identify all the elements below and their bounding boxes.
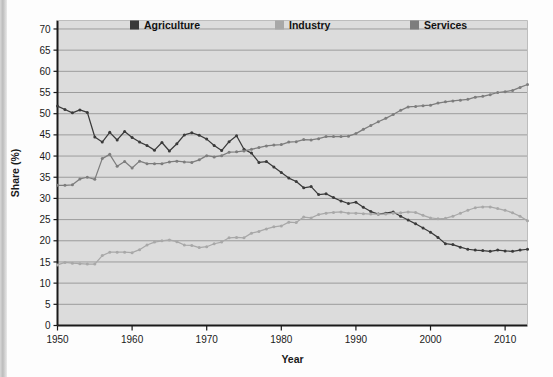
data-point bbox=[183, 244, 186, 247]
data-point bbox=[302, 138, 305, 141]
data-point bbox=[384, 213, 387, 216]
data-point bbox=[190, 161, 193, 164]
data-point bbox=[399, 109, 402, 112]
data-point bbox=[153, 241, 156, 244]
data-point bbox=[78, 262, 81, 265]
data-point bbox=[243, 236, 246, 239]
data-point bbox=[302, 186, 305, 189]
data-point bbox=[519, 215, 522, 218]
legend-swatch-industry bbox=[275, 21, 284, 30]
y-tick-label: 15 bbox=[39, 257, 51, 268]
data-point bbox=[317, 193, 320, 196]
y-tick-label: 45 bbox=[39, 129, 51, 140]
data-point bbox=[377, 213, 380, 216]
data-point bbox=[146, 162, 149, 165]
x-axis-title: Year bbox=[281, 353, 303, 365]
legend-label: Agriculture bbox=[144, 19, 200, 31]
data-point bbox=[146, 244, 149, 247]
data-point bbox=[116, 165, 119, 168]
data-point bbox=[213, 155, 216, 158]
data-point bbox=[504, 209, 507, 212]
data-point bbox=[436, 217, 439, 220]
y-tick-label: 60 bbox=[39, 66, 51, 77]
data-point bbox=[511, 211, 514, 214]
legend-label: Industry bbox=[289, 19, 331, 31]
data-point bbox=[414, 222, 417, 225]
data-point bbox=[339, 199, 342, 202]
data-point bbox=[213, 144, 216, 147]
data-point bbox=[377, 120, 380, 123]
data-point bbox=[116, 251, 119, 254]
data-point bbox=[108, 251, 111, 254]
data-point bbox=[302, 216, 305, 219]
legend-swatch-services bbox=[410, 21, 419, 30]
data-point bbox=[257, 230, 260, 233]
data-point bbox=[436, 236, 439, 239]
data-point bbox=[526, 83, 529, 86]
data-point bbox=[220, 241, 223, 244]
data-point bbox=[213, 242, 216, 245]
data-point bbox=[56, 184, 59, 187]
data-point bbox=[369, 213, 372, 216]
data-point bbox=[310, 185, 313, 188]
data-point bbox=[272, 144, 275, 147]
y-tick-label: 40 bbox=[39, 151, 51, 162]
data-point bbox=[287, 141, 290, 144]
data-point bbox=[146, 144, 149, 147]
data-point bbox=[86, 263, 89, 266]
y-tick-label: 50 bbox=[39, 108, 51, 119]
data-point bbox=[280, 171, 283, 174]
data-point bbox=[489, 250, 492, 253]
x-tick-label: 1980 bbox=[270, 334, 293, 345]
data-point bbox=[220, 154, 223, 157]
data-point bbox=[71, 262, 74, 265]
x-axis-ticks: 1950196019701980199020002010 bbox=[46, 326, 516, 345]
data-point bbox=[86, 111, 89, 114]
data-point bbox=[422, 214, 425, 217]
data-point bbox=[160, 239, 163, 242]
y-tick-label: 65 bbox=[39, 45, 51, 56]
data-point bbox=[101, 254, 104, 257]
data-point bbox=[93, 263, 96, 266]
data-point bbox=[474, 206, 477, 209]
data-point bbox=[101, 141, 104, 144]
data-point bbox=[280, 224, 283, 227]
data-point bbox=[526, 219, 529, 222]
data-point bbox=[339, 210, 342, 213]
data-point bbox=[131, 166, 134, 169]
data-point bbox=[489, 205, 492, 208]
data-point bbox=[175, 240, 178, 243]
data-point bbox=[511, 250, 514, 253]
data-point bbox=[392, 212, 395, 215]
data-point bbox=[205, 245, 208, 248]
data-point bbox=[310, 138, 313, 141]
data-point bbox=[451, 215, 454, 218]
data-point bbox=[444, 100, 447, 103]
data-point bbox=[205, 154, 208, 157]
data-point bbox=[265, 227, 268, 230]
data-point bbox=[93, 135, 96, 138]
data-point bbox=[138, 248, 141, 251]
data-point bbox=[481, 95, 484, 98]
data-point bbox=[362, 212, 365, 215]
data-point bbox=[101, 157, 104, 160]
data-point bbox=[257, 146, 260, 149]
data-point bbox=[519, 86, 522, 89]
data-point bbox=[175, 160, 178, 163]
data-point bbox=[287, 177, 290, 180]
data-point bbox=[63, 108, 66, 111]
y-tick-label: 0 bbox=[45, 320, 51, 331]
data-point bbox=[190, 244, 193, 247]
x-tick-label: 2000 bbox=[419, 334, 442, 345]
data-point bbox=[123, 130, 126, 133]
data-point bbox=[56, 105, 59, 108]
data-point bbox=[71, 111, 74, 114]
x-tick-label: 2010 bbox=[494, 334, 517, 345]
data-point bbox=[220, 149, 223, 152]
y-axis-title: Share (%) bbox=[9, 149, 21, 197]
data-point bbox=[250, 148, 253, 151]
y-tick-label: 25 bbox=[39, 214, 51, 225]
data-point bbox=[63, 261, 66, 264]
data-point bbox=[71, 183, 74, 186]
data-point bbox=[153, 162, 156, 165]
